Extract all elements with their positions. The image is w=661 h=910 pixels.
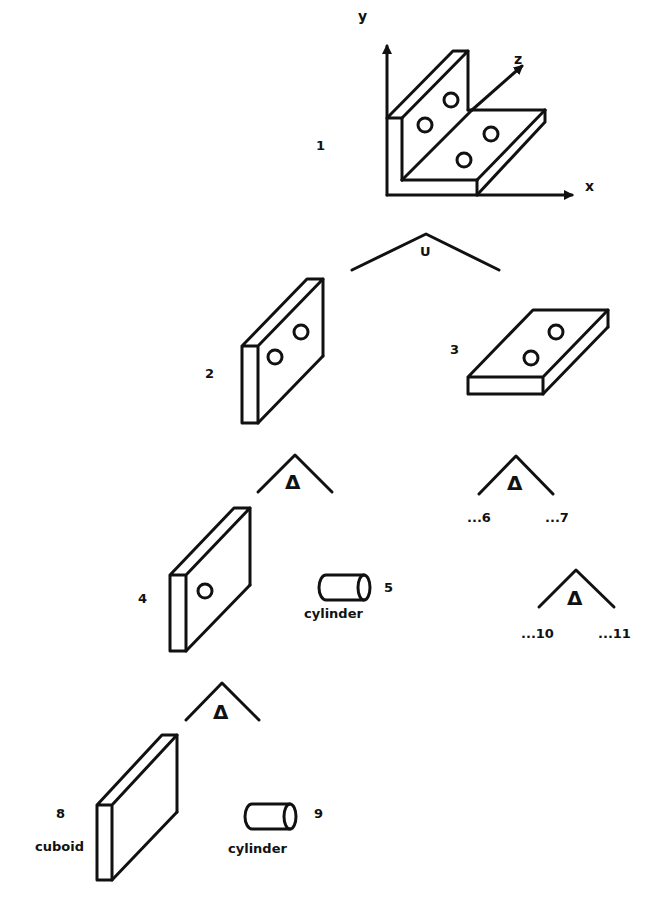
label-node-2: 2	[205, 366, 214, 381]
part-4-plate	[170, 508, 250, 651]
label-node-4: 4	[138, 591, 147, 606]
label-node-5: 5	[384, 580, 393, 595]
diagram-graphics	[0, 0, 661, 910]
difference-symbol: Δ	[567, 586, 582, 610]
difference-symbol: Δ	[285, 470, 300, 494]
label-node-3: 3	[450, 342, 459, 357]
part-1-l-bracket	[387, 46, 572, 195]
label-node-8: 8	[56, 806, 65, 821]
axis-label-y: y	[358, 8, 367, 24]
union-symbol: U	[420, 244, 431, 259]
z-axis-arrow	[472, 66, 522, 110]
label-node-10: ...10	[521, 626, 554, 641]
part-8-cuboid	[97, 735, 177, 880]
part-3-plate	[468, 310, 608, 394]
label-cylinder-9: cylinder	[228, 841, 287, 856]
label-node-11: ...11	[598, 626, 631, 641]
part-9-cylinder	[245, 804, 296, 829]
axis-label-x: x	[585, 178, 594, 194]
axis-label-z: z	[514, 51, 522, 67]
part-2-plate	[242, 279, 323, 423]
csg-tree-diagram: y z x 1 U 2 3 Δ Δ Δ Δ ...6 ...7 ...10 ..…	[0, 0, 661, 910]
label-cuboid-8: cuboid	[35, 839, 84, 854]
part-5-cylinder	[319, 575, 370, 600]
difference-symbol: Δ	[213, 700, 228, 724]
difference-symbol: Δ	[507, 471, 522, 495]
label-cylinder-5: cylinder	[304, 606, 363, 621]
label-node-1: 1	[316, 138, 325, 153]
label-node-7: ...7	[545, 510, 569, 525]
label-node-9: 9	[314, 806, 323, 821]
label-node-6: ...6	[467, 510, 491, 525]
